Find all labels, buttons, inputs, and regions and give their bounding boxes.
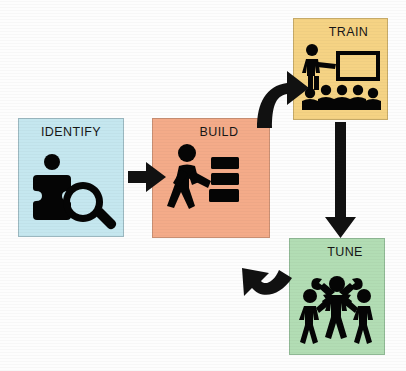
stage-label-train: TRAIN <box>294 25 387 39</box>
worker-carrying-blocks-icon <box>153 141 269 233</box>
stage-box-build[interactable]: BUILD <box>152 118 270 238</box>
instructor-whiteboard-audience-icon <box>294 43 387 115</box>
stage-box-tune[interactable]: TUNE <box>289 238 385 355</box>
stage-box-identify[interactable]: IDENTIFY <box>18 118 124 237</box>
puzzle-magnifier-icon <box>19 150 123 232</box>
connector-tune-to-build <box>242 268 292 296</box>
stage-label-build: BUILD <box>153 125 269 139</box>
diagram-canvas: IDENTIFY BUILD <box>0 0 406 371</box>
stage-label-identify: IDENTIFY <box>19 125 123 139</box>
stage-label-tune: TUNE <box>290 245 384 259</box>
stage-box-train[interactable]: TRAIN <box>293 18 388 120</box>
three-figures-wrenches-icon <box>290 268 384 350</box>
connector-train-to-tune <box>325 122 356 238</box>
